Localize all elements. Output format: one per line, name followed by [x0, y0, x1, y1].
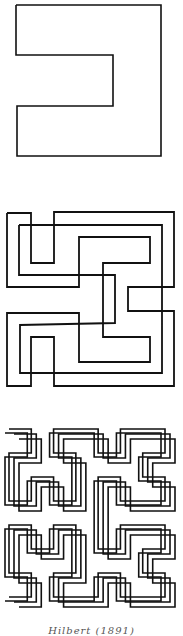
figure-caption: Hilbert (1891) [0, 625, 183, 636]
curve-path [9, 429, 165, 597]
curve-path [19, 225, 162, 373]
curve-path [16, 5, 161, 156]
order-3-curve [5, 429, 175, 607]
order-1-curve [16, 5, 161, 156]
curve-path [19, 439, 175, 607]
curve-path [7, 212, 174, 386]
order-2-curve [7, 212, 174, 386]
